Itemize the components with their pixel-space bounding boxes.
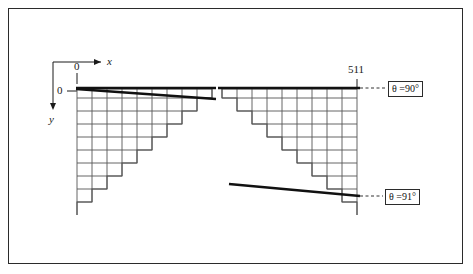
origin-left-label: 0 bbox=[57, 85, 63, 96]
x-axis-label: x bbox=[107, 56, 112, 67]
right-grid-vertical-lines bbox=[222, 89, 357, 215]
diagram-canvas bbox=[0, 0, 473, 274]
x-axis-arrowhead bbox=[94, 59, 101, 65]
right-staircase-outline bbox=[222, 89, 357, 215]
left-grid-horizontal-lines bbox=[77, 89, 212, 202]
left-grid-vertical-lines bbox=[77, 89, 212, 215]
y-axis-arrowhead bbox=[50, 103, 56, 110]
annotation-theta-90: θ =90° bbox=[388, 81, 423, 97]
annotation-theta-91: θ =91° bbox=[385, 189, 420, 205]
origin-top-label: 0 bbox=[74, 61, 80, 72]
left-staircase-outline bbox=[77, 89, 212, 215]
left-panel bbox=[50, 59, 216, 215]
y-axis-label: y bbox=[49, 114, 54, 125]
left-scanline-theta-91 bbox=[76, 89, 216, 99]
figure-container: x y 0 0 511 θ =90° θ =91° bbox=[0, 0, 473, 274]
tick-label-511: 511 bbox=[348, 64, 364, 75]
right-scanline-theta-91 bbox=[229, 184, 360, 196]
right-panel bbox=[218, 79, 386, 215]
